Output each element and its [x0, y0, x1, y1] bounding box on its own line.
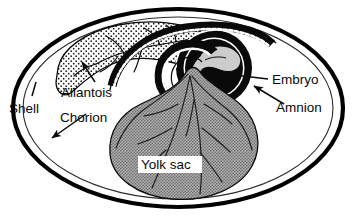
label-chorion: Chorion — [60, 110, 107, 125]
label-allantois: Allantois — [61, 85, 112, 100]
label-embryo: Embryo — [272, 72, 319, 87]
label-amnion: Amnion — [276, 100, 322, 115]
label-yolk-sac-group: Yolk sac — [138, 156, 202, 173]
figure-canvas: Shell Chorion Allantois Embryo Amnion Yo… — [0, 0, 355, 216]
label-yolk-sac: Yolk sac — [141, 157, 191, 172]
label-shell: Shell — [9, 101, 39, 116]
amniotic-egg-diagram: Shell Chorion Allantois Embryo Amnion Yo… — [0, 0, 355, 216]
